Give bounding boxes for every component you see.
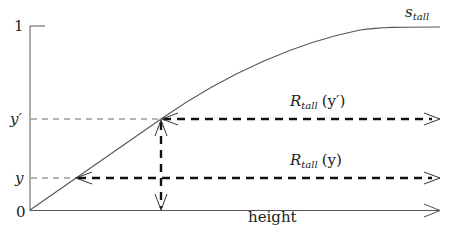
y-tick-0: 0 (16, 203, 26, 221)
r-tall-y-prime-label: Rtall(y′) (289, 92, 345, 111)
x-axis-label: height (248, 208, 297, 226)
y-tick-y-prime: y′ (9, 110, 22, 128)
curve-label: stall (405, 3, 429, 22)
diagram-canvas: 1 y′ y 0 stall Rtall(y′) Rtall(y) height (0, 0, 459, 236)
r-tall-y-label: Rtall(y) (289, 151, 342, 170)
y-tick-y: y (14, 169, 24, 187)
y-tick-1: 1 (14, 17, 24, 35)
